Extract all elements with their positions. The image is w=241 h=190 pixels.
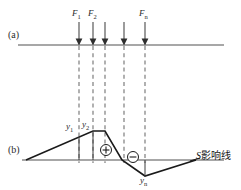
- projection-lines-group: [79, 46, 145, 163]
- influence-line-figure: (a) (b) F1 F2 Fn y1 y2 yn S影响线: [0, 0, 241, 190]
- force-label-F1-subscript: 1: [78, 13, 81, 20]
- force-label-Fn-subscript: n: [145, 13, 148, 20]
- panel-b-group: [22, 131, 224, 176]
- force-label-Fn: Fn: [139, 9, 148, 20]
- panel-a-group: [18, 22, 224, 46]
- panel-tag-a: (a): [8, 30, 19, 40]
- ordinate-label-y1: y1: [66, 122, 73, 133]
- panel-tag-b: (b): [8, 145, 20, 155]
- force-label-F2-subscript: 2: [94, 13, 97, 20]
- influence-line-polyline: [26, 131, 196, 176]
- ordinate-label-y1-subscript: 1: [70, 126, 73, 133]
- figure-canvas: [0, 0, 241, 190]
- ordinate-label-yn-subscript: n: [144, 180, 147, 187]
- force-label-F2: F2: [88, 9, 97, 20]
- force-label-F1: F1: [72, 9, 81, 20]
- ordinate-label-y2-subscript: 2: [86, 124, 89, 131]
- ordinate-label-y2: y2: [82, 120, 89, 131]
- ordinate-label-yn: yn: [140, 176, 147, 187]
- influence-line-caption: S影响线: [196, 151, 231, 161]
- influence-line-caption-text: 影响线: [201, 150, 231, 161]
